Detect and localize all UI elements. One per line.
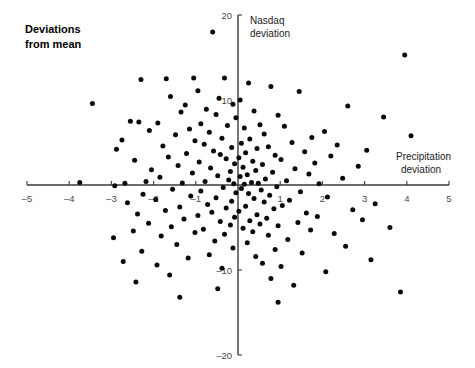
- data-point: [241, 226, 246, 231]
- data-point: [201, 227, 206, 232]
- data-point: [205, 202, 210, 207]
- data-point: [328, 154, 333, 159]
- data-point: [170, 187, 175, 192]
- data-point: [181, 217, 186, 222]
- data-point: [135, 211, 140, 216]
- chart-page: Deviations from mean –5–4–3–2–1123452010…: [0, 0, 475, 368]
- data-point: [211, 149, 216, 154]
- data-point: [177, 295, 182, 300]
- data-point: [233, 190, 238, 195]
- data-point: [159, 234, 164, 239]
- data-point: [247, 137, 252, 142]
- data-point: [125, 200, 130, 205]
- x-tick-label: 5: [446, 193, 451, 204]
- data-point: [164, 76, 169, 81]
- data-point: [218, 152, 223, 157]
- data-point: [176, 163, 181, 168]
- data-point: [229, 145, 234, 150]
- data-point: [263, 177, 268, 182]
- data-point: [387, 225, 392, 230]
- data-point: [236, 155, 241, 160]
- y-axis-label-line1: Nasdaq: [250, 15, 284, 26]
- data-point: [300, 251, 305, 256]
- data-point: [131, 228, 136, 233]
- data-point: [245, 240, 250, 245]
- data-point: [186, 256, 191, 261]
- data-point: [247, 218, 252, 223]
- data-point: [136, 120, 141, 125]
- data-point: [112, 183, 117, 188]
- data-point: [166, 154, 171, 159]
- data-point: [295, 220, 300, 225]
- data-point: [122, 181, 127, 186]
- data-point: [360, 217, 365, 222]
- data-point: [312, 160, 317, 165]
- data-point: [256, 181, 261, 186]
- y-axis-label-line2: deviation: [250, 28, 290, 39]
- data-point: [373, 201, 378, 206]
- axes-group: [27, 15, 449, 355]
- data-point: [274, 184, 279, 189]
- data-point: [257, 222, 262, 227]
- data-point: [217, 96, 222, 101]
- data-point: [268, 84, 273, 89]
- data-point: [221, 185, 226, 190]
- data-point: [222, 75, 227, 80]
- data-point: [198, 188, 203, 193]
- data-point: [317, 181, 322, 186]
- data-point: [157, 175, 162, 180]
- x-axis-label-line2: deviation: [401, 164, 441, 175]
- data-point: [133, 279, 138, 284]
- y-tick-label: –10: [216, 265, 232, 276]
- data-point: [335, 143, 340, 148]
- data-point: [253, 168, 258, 173]
- data-point: [202, 142, 207, 147]
- data-point: [257, 122, 262, 127]
- data-point: [364, 148, 369, 153]
- data-point: [402, 52, 407, 57]
- data-point: [249, 180, 254, 185]
- data-point: [270, 170, 275, 175]
- data-point: [246, 191, 251, 196]
- data-point: [184, 151, 189, 156]
- data-point: [259, 188, 264, 193]
- data-point: [177, 205, 182, 210]
- x-tick-label: –3: [106, 193, 117, 204]
- data-point: [218, 219, 223, 224]
- data-point: [210, 30, 215, 35]
- data-point: [187, 126, 192, 131]
- x-tick-label: 1: [278, 193, 283, 204]
- data-point: [207, 130, 212, 135]
- data-point: [285, 237, 290, 242]
- data-point: [230, 102, 235, 107]
- data-point: [242, 126, 247, 131]
- data-point: [356, 164, 361, 169]
- data-point: [230, 245, 235, 250]
- data-point: [291, 283, 296, 288]
- data-point: [222, 232, 227, 237]
- x-tick-label: –4: [64, 193, 75, 204]
- data-point: [228, 169, 233, 174]
- data-point: [325, 194, 330, 199]
- data-point: [173, 132, 178, 137]
- data-point: [183, 103, 188, 108]
- data-point: [409, 133, 414, 138]
- data-point: [309, 135, 314, 140]
- data-point: [253, 254, 258, 259]
- data-point: [306, 171, 311, 176]
- data-points-group: [77, 30, 413, 305]
- data-point: [114, 147, 119, 152]
- y-tick-label: 10: [221, 95, 232, 106]
- data-point: [219, 266, 224, 271]
- data-point: [163, 208, 168, 213]
- data-point: [214, 112, 219, 117]
- data-point: [260, 162, 265, 167]
- data-point: [260, 261, 265, 266]
- data-point: [350, 207, 355, 212]
- data-point: [119, 137, 124, 142]
- data-point: [262, 200, 267, 205]
- data-point: [304, 211, 309, 216]
- data-point: [226, 177, 231, 182]
- x-axis-label: Precipitation: [396, 151, 451, 162]
- data-point: [266, 144, 271, 149]
